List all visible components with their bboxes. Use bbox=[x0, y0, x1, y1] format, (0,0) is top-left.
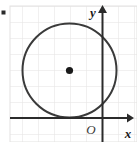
graph-canvas: y x O bbox=[0, 0, 137, 142]
circle-center-point bbox=[66, 67, 73, 74]
grid-lines bbox=[10, 6, 137, 142]
x-axis-label: x bbox=[124, 126, 132, 141]
origin-label: O bbox=[86, 122, 96, 137]
list-bullet-icon bbox=[2, 11, 6, 15]
y-axis-label: y bbox=[88, 5, 96, 20]
coordinate-plane-figure: y x O bbox=[0, 0, 137, 142]
